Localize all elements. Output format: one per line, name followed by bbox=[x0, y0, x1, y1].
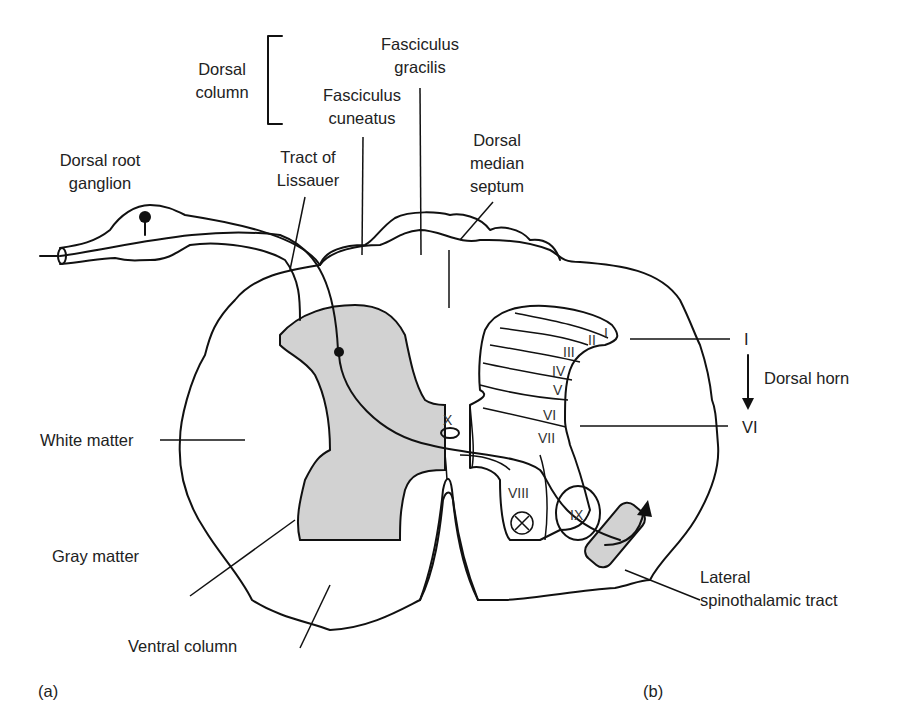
leader-lines bbox=[160, 88, 730, 648]
label-dorsal-median-2: median bbox=[470, 154, 524, 172]
down-arrow-icon bbox=[742, 398, 754, 410]
lamina-label-viii: VIII bbox=[508, 485, 529, 501]
lamina-label-v: V bbox=[553, 382, 563, 398]
label-dorsal-column-2: column bbox=[195, 83, 248, 101]
dorsal-column-bracket bbox=[268, 36, 282, 124]
label-fasciculus-gracilis-1: Fasciculus bbox=[381, 35, 459, 53]
panel-label-a: (a) bbox=[38, 682, 58, 700]
label-range-bottom: VI bbox=[742, 418, 758, 436]
label-gray-matter: Gray matter bbox=[52, 547, 140, 565]
lamina-label-ii: II bbox=[588, 332, 596, 348]
label-lissauer-2: Lissauer bbox=[277, 171, 340, 189]
panel-label-b: (b) bbox=[643, 682, 663, 700]
lamina-label-vi: VI bbox=[543, 407, 556, 423]
lamina-label-ix: IX bbox=[570, 507, 584, 523]
lamina-label-vii: VII bbox=[538, 430, 555, 446]
dorsal-column-outline bbox=[320, 212, 560, 265]
label-drg-1: Dorsal root bbox=[60, 151, 141, 169]
label-fasciculus-gracilis-2: gracilis bbox=[394, 58, 445, 76]
label-lst-1: Lateral bbox=[700, 568, 750, 586]
spinal-cord-diagram: Dorsal column Fasciculus gracilis Fascic… bbox=[0, 0, 903, 722]
ventral-fissure bbox=[420, 493, 478, 601]
lamina-label-iv: IV bbox=[552, 363, 566, 379]
label-range-top: I bbox=[744, 330, 749, 348]
label-drg-2: ganglion bbox=[69, 174, 131, 192]
label-dorsal-median-3: septum bbox=[470, 177, 524, 195]
label-fasciculus-cuneatus-2: cuneatus bbox=[329, 109, 396, 127]
label-lissauer-1: Tract of bbox=[280, 148, 336, 166]
label-dorsal-median-1: Dorsal bbox=[473, 131, 521, 149]
label-lst-2: spinothalamic tract bbox=[700, 591, 838, 609]
lamina-label-iii: III bbox=[563, 344, 575, 360]
label-dorsal-column-1: Dorsal bbox=[198, 60, 246, 78]
lamina-label-x: X bbox=[443, 412, 453, 428]
gray-matter-left[interactable] bbox=[280, 305, 445, 540]
label-ventral-column: Ventral column bbox=[128, 637, 237, 655]
label-dorsal-horn: Dorsal horn bbox=[764, 369, 849, 387]
label-fasciculus-cuneatus-1: Fasciculus bbox=[323, 86, 401, 104]
lamina-label-i: I bbox=[604, 325, 608, 341]
label-white-matter: White matter bbox=[40, 431, 134, 449]
